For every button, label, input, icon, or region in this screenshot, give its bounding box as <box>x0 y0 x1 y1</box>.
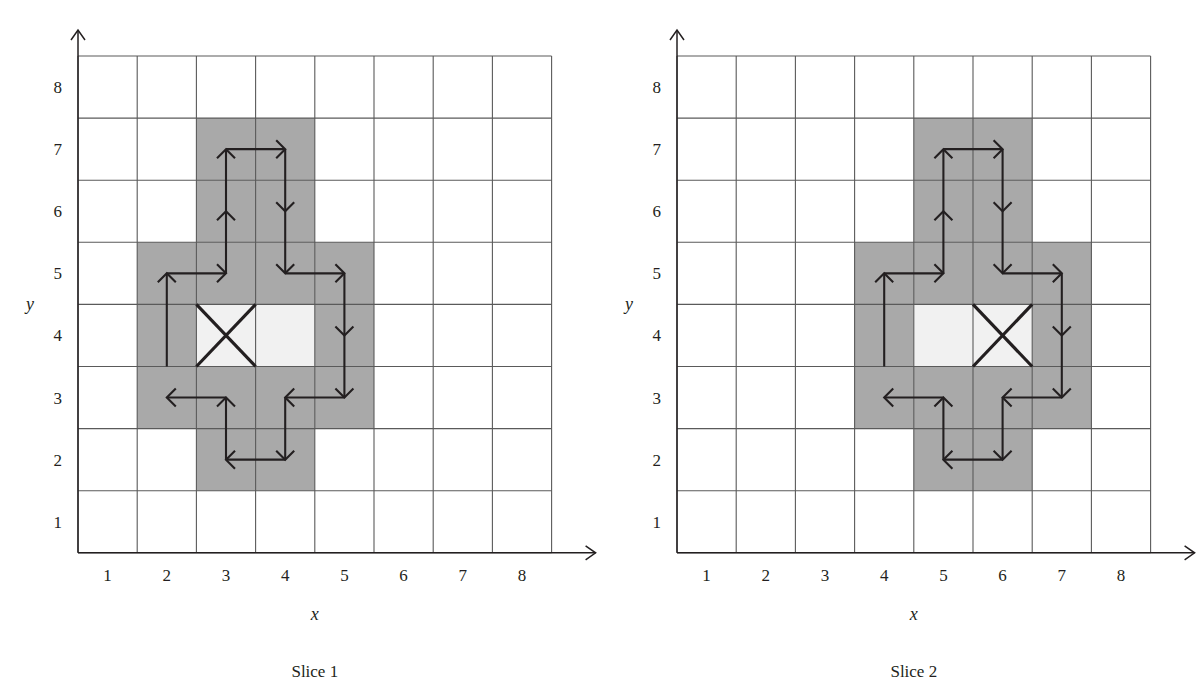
panel-caption: Slice 2 <box>890 662 937 681</box>
y-tick-label: 2 <box>653 451 662 470</box>
x-tick-label: 2 <box>163 566 172 585</box>
y-tick-label: 3 <box>54 389 63 408</box>
panel-slice-2: 1234567812345678xySlice 2 <box>599 0 1197 687</box>
slice-1-plot: 1234567812345678xySlice 1 <box>0 0 598 687</box>
y-tick-label: 4 <box>653 326 662 345</box>
grid-group <box>677 56 1151 553</box>
x-tick-label: 3 <box>821 566 830 585</box>
x-tick-label: 5 <box>939 566 948 585</box>
x-tick-label: 3 <box>222 566 231 585</box>
y-tick-label: 7 <box>653 140 662 159</box>
y-tick-label: 1 <box>653 513 662 532</box>
slice-2-svg: 1234567812345678xySlice 2 <box>599 0 1197 687</box>
x-tick-label: 7 <box>1058 566 1067 585</box>
y-tick-label: 5 <box>54 264 63 283</box>
light-cell <box>914 304 973 366</box>
figure-root: 1234567812345678xySlice 1 12345678123456… <box>0 0 1197 687</box>
panel-slice-1: 1234567812345678xySlice 1 <box>0 0 598 687</box>
light-cell <box>256 304 315 366</box>
y-tick-label: 3 <box>653 389 662 408</box>
y-axis-label: y <box>623 294 633 314</box>
panel-caption: Slice 1 <box>291 662 338 681</box>
y-axis-label: y <box>24 294 34 314</box>
x-tick-label: 8 <box>518 566 527 585</box>
x-tick-label: 4 <box>281 566 290 585</box>
x-tick-label: 2 <box>762 566 771 585</box>
slice-1-svg: 1234567812345678xySlice 1 <box>0 0 598 687</box>
x-tick-label: 5 <box>340 566 349 585</box>
y-tick-label: 8 <box>54 78 63 97</box>
x-tick-label: 1 <box>702 566 711 585</box>
grid-group <box>78 56 552 553</box>
y-tick-label: 2 <box>54 451 63 470</box>
x-tick-label: 8 <box>1117 566 1126 585</box>
y-tick-label: 4 <box>54 326 63 345</box>
x-axis-label: x <box>909 604 918 624</box>
y-tick-label: 8 <box>653 78 662 97</box>
slice-2-plot: 1234567812345678xySlice 2 <box>599 0 1197 687</box>
x-axis-label: x <box>310 604 319 624</box>
y-tick-label: 6 <box>653 202 662 221</box>
x-tick-label: 7 <box>459 566 468 585</box>
y-tick-label: 6 <box>54 202 63 221</box>
x-tick-label: 6 <box>998 566 1007 585</box>
x-tick-label: 6 <box>399 566 408 585</box>
y-tick-label: 7 <box>54 140 63 159</box>
x-tick-label: 1 <box>103 566 112 585</box>
y-tick-label: 5 <box>653 264 662 283</box>
y-tick-label: 1 <box>54 513 63 532</box>
x-tick-label: 4 <box>880 566 889 585</box>
